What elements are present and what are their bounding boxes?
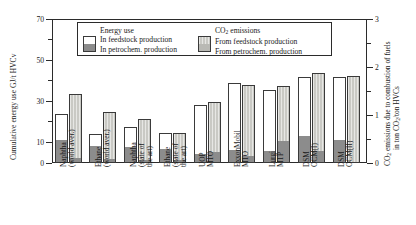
x-axis-label: DSMOCM(II) <box>338 141 354 167</box>
x-axis-label-line: OCM(II) <box>346 141 354 167</box>
y-axis-right-title-sub: 2 <box>386 153 392 156</box>
y-tick-left-minor-20 <box>48 121 52 122</box>
x-axis-label-line: (world aver.) <box>68 129 76 167</box>
y-tick-right-2 <box>367 67 373 68</box>
x-axis-label: Ethane(world aver.) <box>95 129 111 167</box>
x-axis-label: Naphtha(state ofthe art) <box>130 142 155 167</box>
y-tick-label-left-0: 0 <box>40 159 44 168</box>
y-axis-right-title-unit-post: /ton HVCs <box>392 86 401 118</box>
legend-group-co2: CO2 emissions From feedstock production … <box>197 25 327 53</box>
y-axis-right-title-rest: emissions due to combustion of fuels <box>383 41 392 153</box>
y-tick-right-0 <box>367 163 373 164</box>
legend-swatch-co2 <box>198 36 211 52</box>
legend-group-energy: Energy use In feedstock production In pe… <box>82 25 197 53</box>
x-axis-label-line: MTO <box>242 130 250 167</box>
chart-legend: Energy use In feedstock production In pe… <box>77 22 332 56</box>
x-axis-label-line: (world aver.) <box>103 129 111 167</box>
y-tick-label-left-10: 10 <box>36 138 44 147</box>
y-tick-label-right-0: 0 <box>375 159 379 168</box>
x-axis-label: Naphtha(world aver.) <box>60 129 76 167</box>
y-tick-label-right-2: 2 <box>375 63 379 72</box>
y-tick-left-minor-40 <box>48 80 52 81</box>
x-axis-label: DSMOCM(I) <box>303 143 319 167</box>
legend-item-energy-petrochem: In petrochem. production <box>100 45 177 54</box>
legend-heading-energy: Energy use <box>100 26 177 35</box>
y-tick-right-3 <box>367 19 373 20</box>
x-axis-label-line: the art) <box>146 142 154 167</box>
y-axis-right-title-unit-pre: in ton CO <box>392 121 401 150</box>
legend-heading-co2: CO2 emissions <box>215 26 302 37</box>
y-tick-left-70 <box>46 19 52 20</box>
y-tick-right-minor-1-5 <box>367 91 371 92</box>
y-tick-left-10 <box>46 142 52 143</box>
y-tick-label-left-30: 30 <box>36 97 44 106</box>
x-axis-label-line: MTO <box>207 151 215 167</box>
y-tick-label-right-3: 3 <box>375 15 379 24</box>
y-tick-left-minor-60 <box>48 39 52 40</box>
legend-item-co2-feedstock: From feedstock production <box>215 37 302 46</box>
x-axis-label-line: the art) <box>181 143 189 167</box>
y-axis-left-title: Cumulative energy use GJ/t HVCv <box>9 54 18 160</box>
y-tick-left-50 <box>46 60 52 61</box>
legend-swatch-energy <box>83 36 96 52</box>
x-axis-label-line: OCM(I) <box>312 143 320 167</box>
y-tick-right-minor-0-5 <box>367 139 371 140</box>
x-axis-label-line: MTP <box>277 151 285 167</box>
y-axis-right-title-co: CO <box>383 156 392 166</box>
legend-item-co2-petrochem: From petrochem. production <box>215 47 302 56</box>
y-axis-right-title-unit-sub: 2 <box>395 118 401 121</box>
x-axis-label: LurgiMTP <box>269 151 285 167</box>
y-tick-label-left-70: 70 <box>36 15 44 24</box>
y-tick-label-left-50: 50 <box>36 56 44 65</box>
chart-figure: Cumulative energy use GJ/t HVCv CO2 emis… <box>0 0 416 225</box>
x-axis-label: ExxonMobilMTO <box>234 130 250 167</box>
y-tick-left-0 <box>46 163 52 164</box>
x-axis-label: Ethane(state ofthe art) <box>164 143 189 167</box>
y-axis-right-title: CO2 emissions due to combustion of fuels… <box>384 16 403 166</box>
y-tick-left-30 <box>46 101 52 102</box>
y-tick-right-1 <box>367 115 373 116</box>
legend-item-energy-feedstock: In feedstock production <box>100 35 177 44</box>
x-axis-label: UOPMTO <box>199 151 215 167</box>
y-tick-label-right-1: 1 <box>375 111 379 120</box>
y-tick-right-minor-2-5 <box>367 43 371 44</box>
